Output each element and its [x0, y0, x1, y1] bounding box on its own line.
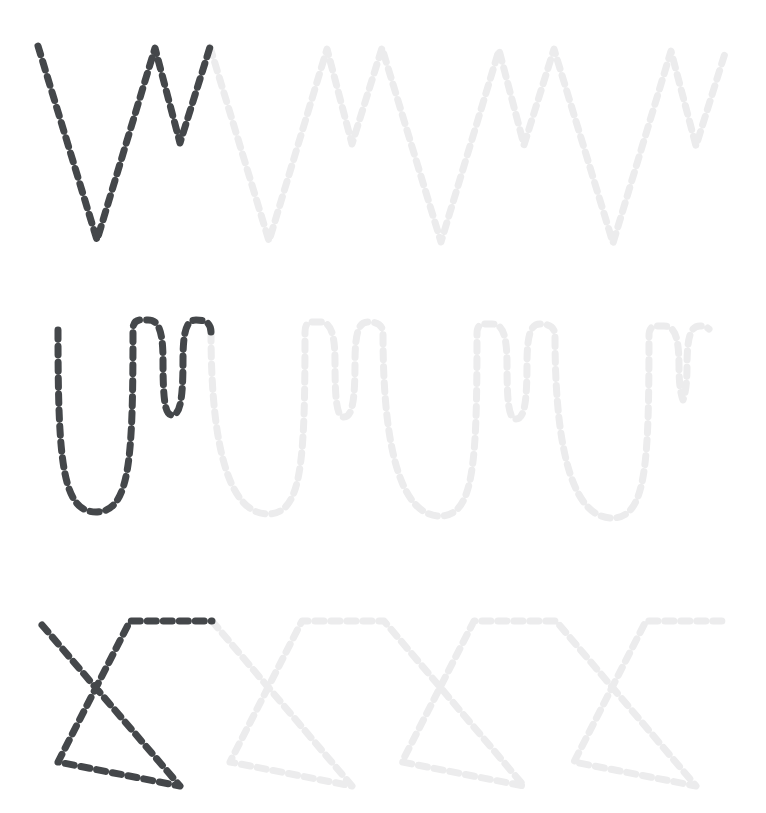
row-curve-uw	[58, 320, 709, 518]
tracing-worksheet-svg	[0, 0, 766, 813]
row-crossed-z-traced-path	[42, 621, 212, 786]
row-curve-uw-traced-path	[58, 320, 211, 512]
row-curve-uw-guide-path	[211, 322, 709, 518]
row-crossed-z-guide-path	[212, 621, 728, 786]
row-zigzag-vw	[38, 46, 726, 243]
worksheet-canvas	[0, 0, 766, 813]
row-crossed-z	[42, 621, 728, 786]
row-zigzag-vw-guide-path	[210, 47, 726, 243]
row-zigzag-vw-traced-path	[38, 46, 210, 240]
